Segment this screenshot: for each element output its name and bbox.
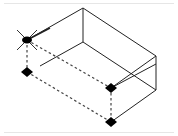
dashed-bottom-diagonal bbox=[27, 72, 111, 122]
solid-edges bbox=[27, 8, 156, 122]
edge-bottom-right bbox=[111, 90, 156, 122]
diagram-canvas bbox=[0, 0, 178, 136]
edge-top-front-right bbox=[111, 56, 156, 88]
edge-inner-left bbox=[40, 42, 83, 66]
edge-mid-right bbox=[111, 64, 156, 88]
vertex-point-left[interactable] bbox=[21, 67, 33, 77]
box-wireframe bbox=[0, 0, 178, 136]
dashed-top-diagonal bbox=[27, 40, 111, 88]
